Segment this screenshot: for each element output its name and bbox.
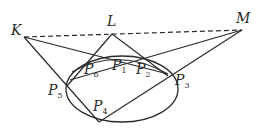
label-k: K: [11, 23, 21, 37]
label-m: M: [236, 11, 250, 25]
label-p2: P2: [136, 62, 151, 79]
line-m-p4: [99, 30, 242, 122]
diagram-lines: [0, 0, 268, 134]
label-p3: P3: [175, 73, 190, 90]
hexagon-ellipse-diagram: K L M P1 P2 P3 P4 P5 P6: [0, 0, 268, 134]
line-k-p4: [24, 37, 99, 122]
label-p4: P4: [93, 99, 108, 116]
dashed-line-klm: [24, 30, 242, 37]
label-p6: P6: [84, 62, 99, 79]
label-p5: P5: [48, 83, 63, 100]
label-l: L: [107, 14, 116, 28]
label-p1: P1: [112, 58, 127, 75]
